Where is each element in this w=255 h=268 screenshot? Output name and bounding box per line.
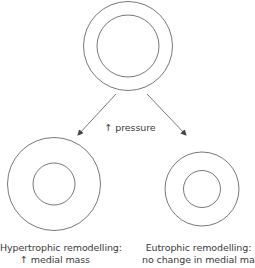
pressure-label: ↑ pressure bbox=[100, 122, 160, 134]
lumen-circle bbox=[33, 163, 75, 205]
lumen-circle bbox=[97, 15, 159, 77]
hypertrophic-detail: ↑ medial mass bbox=[0, 254, 110, 266]
eutrophic-caption: Eutrophic remodelling: no change in medi… bbox=[142, 242, 255, 266]
eutrophic-detail: no change in medial mass bbox=[142, 254, 255, 266]
outer-wall-circle bbox=[165, 152, 239, 226]
eutrophic-title: Eutrophic remodelling: bbox=[142, 242, 255, 254]
eutrophic-vessel bbox=[165, 152, 239, 226]
outer-wall-circle bbox=[8, 138, 101, 231]
hypertrophic-caption: Hypertrophic remodelling: ↑ medial mass bbox=[0, 242, 110, 266]
hypertrophic-vessel bbox=[8, 138, 101, 231]
lumen-circle bbox=[184, 171, 221, 208]
normal-vessel bbox=[84, 2, 173, 91]
hypertrophic-title: Hypertrophic remodelling: bbox=[0, 242, 110, 254]
remodelling-diagram bbox=[0, 0, 255, 268]
